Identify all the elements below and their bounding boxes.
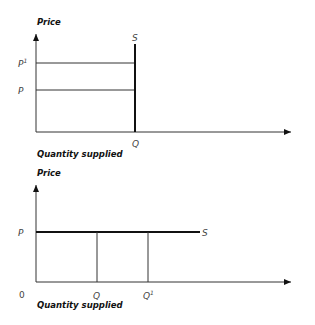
top-y-axis-title: Price [37,17,61,27]
top-chart: Price S P1 P Q Quantity supplied [18,17,291,159]
bottom-y-axis-title: Price [37,168,61,178]
bottom-p-label: P [18,228,24,238]
bottom-q1-label: Q1 [143,289,154,301]
top-s-label: S [132,33,138,43]
supply-elasticity-diagrams: Price S P1 P Q Quantity supplied Price S… [0,0,315,325]
bottom-origin-label: 0 [19,290,25,300]
top-x-axis-title: Quantity supplied [37,149,123,159]
top-q-label: Q [132,139,139,149]
bottom-s-label: S [202,228,208,238]
top-p1-label: P1 [18,57,27,69]
top-p-label: P [18,86,24,96]
bottom-x-axis-title: Quantity supplied [37,300,123,310]
bottom-chart: Price S P 0 Q Q1 Quantity supplied [18,168,291,310]
